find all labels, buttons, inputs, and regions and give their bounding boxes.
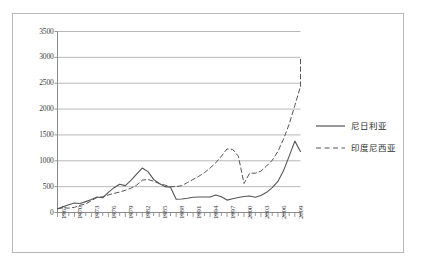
x-tick-label: 1994 [213, 205, 220, 218]
x-tick-label: 2003 [264, 205, 271, 218]
y-tick-label: 3000 [28, 53, 54, 61]
y-tick-label: 2500 [28, 79, 54, 87]
x-tick-label: 1976 [111, 205, 118, 218]
y-tick-label: 1000 [28, 157, 54, 165]
x-tick-label: 1979 [128, 205, 135, 218]
x-tick-label: 1997 [230, 205, 237, 218]
x-tick-label: 1970 [77, 205, 84, 218]
x-tick-label: 1988 [179, 205, 186, 218]
x-tick-label: 2000 [247, 205, 254, 218]
x-tick-label: 1985 [162, 205, 169, 218]
legend-label-1: 印度尼西亚 [351, 143, 396, 153]
x-tick-label: 1982 [145, 205, 152, 218]
y-tick-label: 3500 [28, 28, 54, 36]
y-tick-label: 1500 [28, 131, 54, 139]
y-tick-label: 0 [28, 209, 54, 217]
legend-label-0: 尼日利亚 [351, 121, 387, 131]
y-tick-label: 2000 [28, 105, 54, 113]
x-tick-label: 2006 [281, 205, 288, 218]
x-tick-label: 1967 [61, 205, 68, 218]
y-tick-label: 500 [28, 183, 54, 191]
x-tick-label: 2009 [298, 205, 305, 218]
chart-outer-frame [12, 13, 404, 253]
x-tick-label: 1991 [196, 205, 203, 218]
x-tick-label: 1973 [94, 205, 101, 218]
chart-figure: 0500100015002000250030003500 19671970197… [0, 0, 422, 268]
